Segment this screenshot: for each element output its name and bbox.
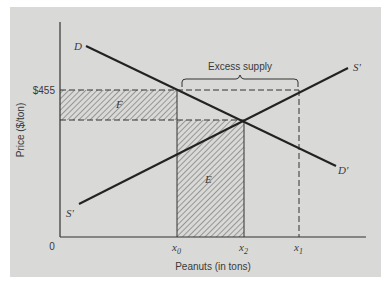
demand-end-label: D' bbox=[337, 164, 349, 176]
y-axis-title: Price ($/ton) bbox=[15, 103, 26, 157]
price-support-chart: Excess supply $455 0 Peanuts (in tons) P… bbox=[0, 0, 391, 290]
supply-end-label: S' bbox=[353, 61, 362, 73]
x2-tick-label: x2 bbox=[238, 241, 248, 256]
region-e-label: E bbox=[204, 173, 212, 185]
x-axis-title: Peanuts (in tons) bbox=[175, 261, 251, 272]
region-f-label: F bbox=[115, 98, 123, 110]
supply-start-label: S' bbox=[66, 207, 75, 219]
x0-tick-label: x0 bbox=[171, 241, 181, 256]
price-455-label: $455 bbox=[33, 85, 56, 96]
demand-start-label: D bbox=[73, 40, 82, 52]
origin-label: 0 bbox=[49, 241, 55, 252]
excess-supply-brace bbox=[182, 75, 298, 87]
x1-tick-label: x1 bbox=[293, 241, 303, 256]
excess-supply-label: Excess supply bbox=[208, 61, 272, 72]
